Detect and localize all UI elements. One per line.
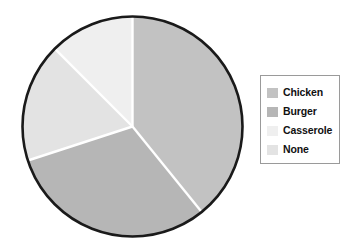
legend-label-none: None <box>283 144 309 155</box>
pie-chart-figure: Chicken Burger Casserole None <box>0 0 357 248</box>
legend-item-burger: Burger <box>261 102 339 121</box>
chart-legend: Chicken Burger Casserole None <box>260 75 340 164</box>
legend-swatch-none <box>267 145 278 155</box>
legend-item-none: None <box>261 140 339 159</box>
legend-swatch-casserole <box>267 126 278 136</box>
legend-label-casserole: Casserole <box>283 125 332 136</box>
legend-swatch-chicken <box>267 88 278 98</box>
legend-item-chicken: Chicken <box>261 83 339 102</box>
legend-swatch-burger <box>267 107 278 117</box>
legend-item-casserole: Casserole <box>261 121 339 140</box>
legend-label-burger: Burger <box>283 106 317 117</box>
legend-label-chicken: Chicken <box>283 87 323 98</box>
